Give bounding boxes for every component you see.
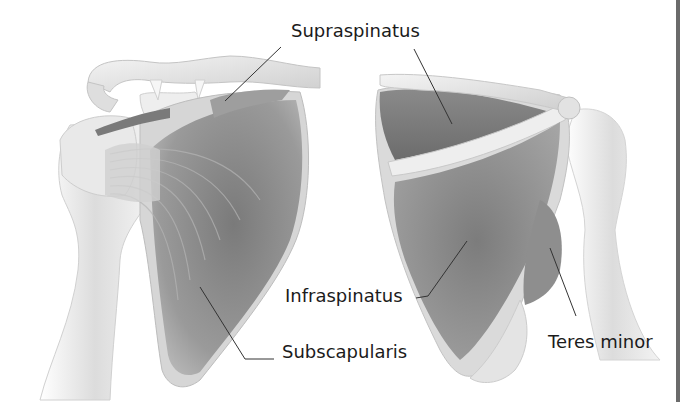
label-infraspinatus: Infraspinatus (285, 287, 403, 305)
label-teres-minor: Teres minor (548, 333, 653, 351)
page-edge-bar (676, 0, 680, 402)
label-supraspinatus: Supraspinatus (291, 22, 420, 40)
clavicle-left (88, 56, 320, 92)
humerus-right (565, 109, 660, 360)
anterior-view (40, 56, 320, 400)
rotator-cuff-diagram: Supraspinatus Infraspinatus Subscapulari… (0, 0, 688, 402)
subscapularis-muscle (150, 100, 302, 375)
label-subscapularis: Subscapularis (282, 343, 407, 361)
